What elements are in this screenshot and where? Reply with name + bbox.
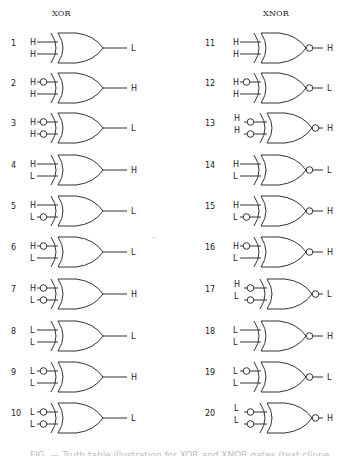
input-1-label: H [233, 201, 239, 210]
gate-number: 16 [205, 243, 215, 252]
gate-body [261, 237, 306, 267]
input-2-label: L [30, 172, 35, 181]
gate-7-xor: 7HLH [11, 279, 137, 309]
inversion-bubble-icon [40, 297, 47, 304]
gate-8-xor: 8LLL [11, 321, 136, 351]
gate-body [58, 362, 103, 392]
input-1-label: L [233, 367, 238, 376]
gate-body [261, 362, 306, 392]
input-2-label: L [233, 338, 238, 347]
inversion-bubble-icon [247, 285, 254, 292]
gate-body [58, 155, 103, 185]
gate-19-xnor: 19LLL [205, 362, 332, 392]
logic-gate-diagram: 1HHL2HHH3HHL4HLH5HLL6HLL7HLH8LLL9LLH10LL… [0, 0, 354, 456]
inversion-bubble-icon [40, 243, 47, 250]
gate-6-xor: 6HLL [11, 237, 136, 267]
input-2-label: L [30, 254, 35, 263]
input-2-label: L [30, 379, 35, 388]
gate-number: 2 [11, 79, 16, 88]
inversion-bubble-icon [40, 119, 47, 126]
output-label: L [327, 166, 332, 175]
xor-input-arc [254, 73, 259, 103]
gate-1-xor: 1HHL [11, 33, 136, 63]
inversion-bubble-icon [243, 243, 250, 250]
input-1-label: H [234, 280, 240, 289]
inversion-bubble-icon [247, 297, 254, 304]
gate-17-xnor: 17HLL [205, 279, 332, 309]
output-label: L [131, 248, 136, 257]
gate-number: 14 [205, 161, 215, 170]
output-label: H [327, 414, 333, 423]
output-bubble-icon [306, 85, 313, 92]
gate-number: 10 [11, 409, 21, 418]
gate-3-xor: 3HHL [11, 113, 136, 143]
output-label: H [327, 207, 333, 216]
gate-body [261, 321, 306, 351]
output-bubble-icon [306, 333, 313, 340]
input-2-label: H [30, 90, 36, 99]
xor-input-arc [260, 279, 265, 309]
output-bubble-icon [306, 45, 313, 52]
input-2-label: L [234, 416, 239, 425]
gate-body [58, 73, 103, 103]
gate-number: 7 [11, 285, 16, 294]
gate-number: 4 [11, 161, 16, 170]
output-label: L [131, 44, 136, 53]
input-2-label: L [233, 213, 238, 222]
output-bubble-icon [312, 415, 319, 422]
gate-body [261, 155, 306, 185]
input-2-label: L [234, 292, 239, 301]
input-2-label: H [234, 126, 240, 135]
gate-15-xnor: 15HLH [205, 196, 333, 226]
inversion-bubble-icon [40, 131, 47, 138]
output-bubble-icon [306, 374, 313, 381]
inversion-bubble-icon [247, 119, 254, 126]
gate-number: 19 [205, 368, 215, 377]
inversion-bubble-icon [40, 421, 47, 428]
input-1-label: L [30, 326, 35, 335]
gate-body [58, 279, 103, 309]
input-1-label: L [30, 367, 35, 376]
gate-number: 6 [11, 243, 16, 252]
output-label: L [131, 332, 136, 341]
output-label: H [131, 84, 137, 93]
gate-12-xnor: 12HHL [205, 73, 332, 103]
output-label: L [131, 207, 136, 216]
xor-input-arc [254, 33, 259, 63]
gate-16-xnor: 16HLH [205, 237, 333, 267]
output-bubble-icon [312, 291, 319, 298]
xor-input-arc [254, 237, 259, 267]
output-label: H [131, 373, 137, 382]
output-label: L [131, 124, 136, 133]
output-label: H [327, 124, 333, 133]
input-1-label: H [30, 242, 36, 251]
input-1-label: H [234, 114, 240, 123]
xor-input-arc [254, 321, 259, 351]
gate-body [261, 73, 306, 103]
gate-number: 1 [11, 39, 16, 48]
input-1-label: L [30, 408, 35, 417]
xor-input-arc [254, 155, 259, 185]
output-bubble-icon [306, 167, 313, 174]
gate-body [58, 321, 103, 351]
input-1-label: H [30, 284, 36, 293]
gate-number: 12 [205, 79, 215, 88]
inversion-bubble-icon [40, 79, 47, 86]
input-2-label: H [30, 130, 36, 139]
input-1-label: H [30, 78, 36, 87]
output-label: H [327, 44, 333, 53]
gate-11-xnor: 11HHH [205, 33, 333, 63]
inversion-bubble-icon [247, 421, 254, 428]
inversion-bubble-icon [40, 214, 47, 221]
gate-body [58, 113, 103, 143]
output-label: L [327, 290, 332, 299]
xor-input-arc [51, 155, 56, 185]
input-2-label: H [30, 50, 36, 59]
xor-input-arc [51, 362, 56, 392]
input-2-label: L [233, 172, 238, 181]
gate-body [261, 196, 306, 226]
input-2-label: H [233, 50, 239, 59]
input-2-label: L [30, 296, 35, 305]
gate-body [58, 33, 103, 63]
xor-input-arc [51, 279, 56, 309]
